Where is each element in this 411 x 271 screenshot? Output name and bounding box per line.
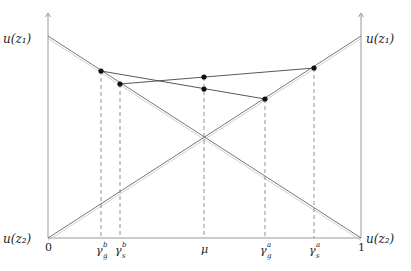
svg-text:b: b	[122, 241, 127, 249]
point-gamma-g-a	[262, 96, 267, 101]
label-zero: 0	[45, 241, 52, 254]
svg-text:s: s	[122, 252, 126, 260]
label-one: 1	[358, 241, 365, 254]
point-mu-lower	[201, 86, 206, 91]
svg-text:γ: γ	[260, 244, 267, 257]
svg-text:γ: γ	[115, 244, 122, 257]
label-left-u-z1: u(z₁)	[3, 32, 32, 46]
point-mu-upper	[201, 74, 206, 79]
point-gamma-g-b	[98, 68, 103, 73]
axes	[46, 13, 364, 238]
svg-text:a: a	[267, 241, 271, 249]
label-gamma-g-a: γ a g	[260, 241, 272, 260]
svg-text:a: a	[316, 241, 320, 249]
label-left-u-z2: u(z₂)	[3, 232, 32, 246]
svg-text:γ: γ	[96, 244, 103, 257]
label-gamma-s-a: γ a s	[309, 241, 320, 260]
svg-text:γ: γ	[309, 244, 316, 257]
label-gamma-s-b: γ b s	[115, 241, 127, 260]
chord-g	[101, 71, 265, 99]
svg-text:g: g	[103, 252, 108, 260]
point-gamma-s-a	[311, 65, 316, 70]
svg-text:g: g	[267, 252, 272, 260]
svg-text:s: s	[316, 252, 320, 260]
chord-s	[120, 68, 314, 84]
label-mu: μ	[201, 243, 208, 256]
label-right-u-z2: u(z₂)	[366, 232, 395, 246]
chords	[101, 68, 314, 99]
svg-text:b: b	[103, 241, 108, 249]
point-gamma-s-b	[117, 81, 122, 86]
diagram-canvas: u(z₁) u(z₂) u(z₁) u(z₂) 0 1 γ b g γ b s …	[0, 0, 411, 271]
label-right-u-z1: u(z₁)	[366, 32, 395, 46]
label-gamma-g-b: γ b g	[96, 241, 108, 260]
